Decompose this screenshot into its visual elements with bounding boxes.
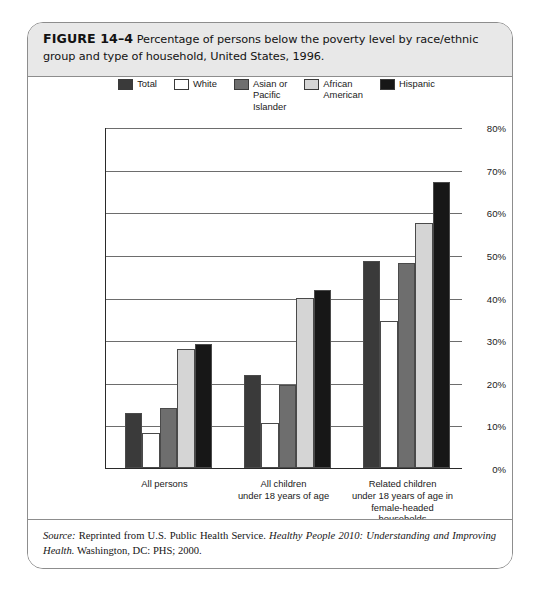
- y-axis-tick-label: 10%: [440, 421, 512, 432]
- figure-frame: FIGURE 14–4 Percentage of persons below …: [27, 22, 513, 569]
- bar: [279, 385, 297, 468]
- x-axis-group-label: All persons: [141, 478, 187, 490]
- y-axis-tick-label: 50%: [440, 250, 512, 261]
- legend-item[interactable]: African American: [304, 78, 363, 128]
- bar: [160, 408, 178, 468]
- legend-label: African American: [323, 78, 363, 101]
- source-body-2: Washington, DC: PHS; 2000.: [74, 545, 201, 556]
- legend-item[interactable]: Asian or Pacific Islander: [234, 78, 287, 128]
- bar: [125, 413, 143, 468]
- y-axis-tick-label: 80%: [440, 123, 512, 134]
- x-axis-group-label: All children under 18 years of age: [238, 478, 329, 502]
- bar: [415, 223, 433, 468]
- bar: [380, 321, 398, 468]
- bar: [142, 433, 160, 468]
- legend-item[interactable]: Hispanic: [380, 78, 435, 128]
- legend-swatch-icon: [304, 79, 319, 90]
- legend-swatch-icon: [174, 79, 189, 90]
- gridline: [106, 171, 462, 172]
- legend-item[interactable]: Total: [118, 78, 157, 128]
- figure-source-band: Source: Reprinted from U.S. Public Healt…: [28, 519, 512, 568]
- y-axis-tick-label: 40%: [440, 293, 512, 304]
- bar: [398, 263, 416, 468]
- gridline: [106, 128, 462, 129]
- legend-label: Total: [137, 78, 157, 89]
- y-axis-tick-label: 30%: [440, 336, 512, 347]
- figure-caption-band: FIGURE 14–4 Percentage of persons below …: [28, 23, 512, 77]
- figure-source-text: Source: Reprinted from U.S. Public Healt…: [43, 529, 496, 558]
- chart-legend: TotalWhiteAsian or Pacific IslanderAfric…: [28, 78, 512, 128]
- bar: [314, 290, 332, 468]
- figure-number-label: FIGURE 14–4: [43, 31, 133, 46]
- legend-swatch-icon: [380, 79, 395, 90]
- y-axis-tick-label: 20%: [440, 378, 512, 389]
- source-prefix: Source:: [43, 530, 76, 541]
- legend-swatch-icon: [234, 79, 249, 90]
- y-axis-tick-label: 60%: [440, 208, 512, 219]
- legend-item[interactable]: White: [174, 78, 217, 128]
- bar: [296, 298, 314, 468]
- bar: [244, 375, 262, 468]
- legend-label: Asian or Pacific Islander: [253, 78, 287, 112]
- chart-plot-area: [105, 128, 462, 469]
- legend-swatch-icon: [118, 79, 133, 90]
- y-axis-tick-label: 70%: [440, 165, 512, 176]
- bar: [261, 423, 279, 468]
- gridline: [106, 213, 462, 214]
- source-body-1: Reprinted from U.S. Public Health Servic…: [76, 530, 269, 541]
- legend-label: Hispanic: [399, 78, 435, 89]
- bar: [177, 349, 195, 468]
- bar: [363, 261, 381, 468]
- figure-caption: FIGURE 14–4 Percentage of persons below …: [43, 31, 498, 65]
- chart-area: 80%70%60%50%40%30%20%10%0%All personsAll…: [28, 123, 512, 518]
- y-axis-tick-label: 0%: [440, 464, 512, 475]
- gridline: [106, 256, 462, 257]
- legend-label: White: [193, 78, 217, 89]
- bar: [195, 344, 213, 468]
